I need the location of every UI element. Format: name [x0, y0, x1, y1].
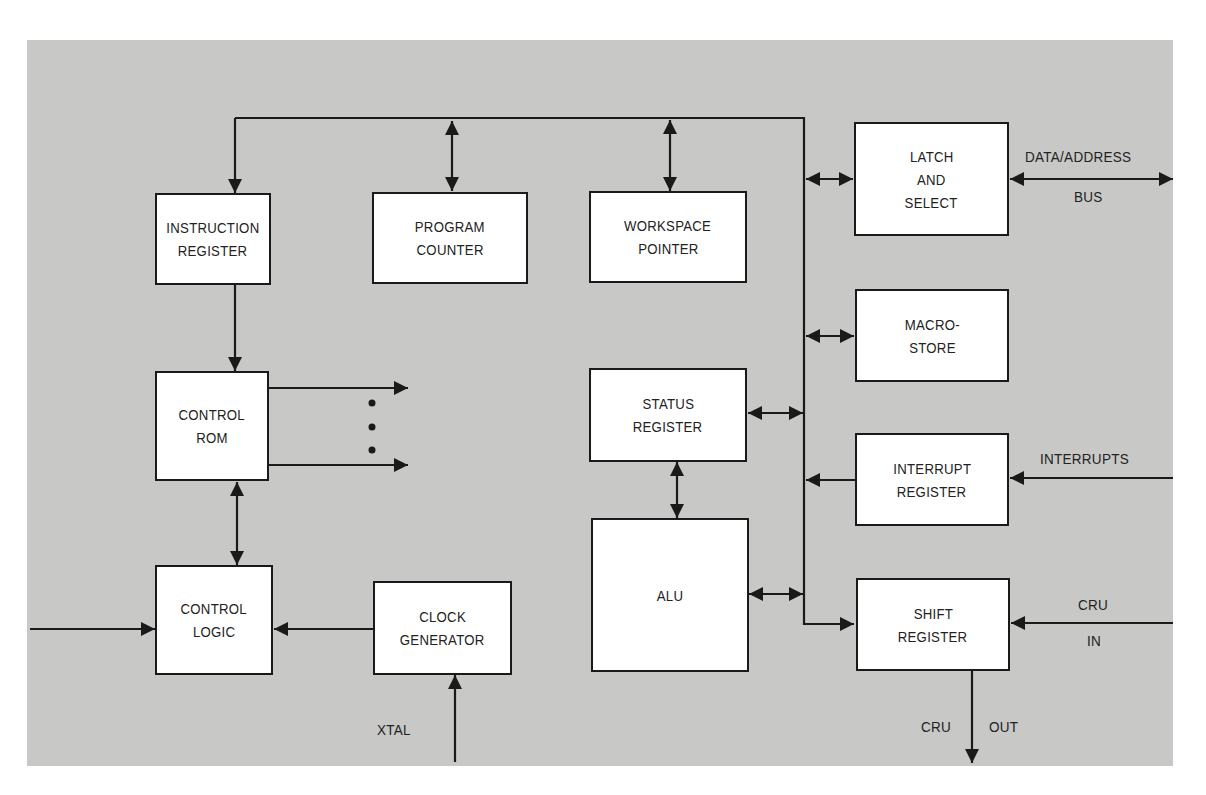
block-label: CONTROL — [181, 597, 247, 620]
block-label: GENERATOR — [400, 628, 485, 651]
block-label: ALU — [657, 584, 683, 607]
program-counter-block: PROGRAM COUNTER — [372, 192, 528, 284]
bus-label: BUS — [1074, 188, 1103, 205]
control-rom-block: CONTROL ROM — [155, 371, 269, 481]
interrupts-label: INTERRUPTS — [1040, 450, 1129, 467]
ellipsis-dots — [369, 400, 376, 454]
block-label: STORE — [909, 336, 956, 359]
clock-generator-block: CLOCK GENERATOR — [373, 581, 512, 675]
block-label: REGISTER — [178, 239, 248, 262]
block-label: COUNTER — [416, 238, 483, 261]
block-label: REGISTER — [898, 625, 968, 648]
block-label: REGISTER — [633, 415, 703, 438]
status-register-block: STATUS REGISTER — [589, 368, 747, 462]
macro-store-block: MACRO- STORE — [855, 289, 1009, 382]
block-label: STATUS — [642, 392, 694, 415]
block-label: REGISTER — [897, 480, 967, 503]
cru-in-label-top: CRU — [1078, 596, 1108, 613]
xtal-label: XTAL — [377, 721, 411, 738]
block-label: LATCH — [910, 145, 954, 168]
cru-in-label-bottom: IN — [1087, 632, 1101, 649]
block-label: AND — [917, 168, 946, 191]
interrupt-register-block: INTERRUPT REGISTER — [855, 433, 1009, 526]
block-label: SHIFT — [913, 602, 952, 625]
data-address-label: DATA/ADDRESS — [1025, 148, 1131, 165]
cru-out-label-right: OUT — [989, 718, 1018, 735]
block-label: CONTROL — [179, 403, 245, 426]
block-label: POINTER — [638, 237, 699, 260]
block-label: MACRO- — [904, 313, 959, 336]
control-logic-block: CONTROL LOGIC — [155, 565, 273, 675]
block-label: CLOCK — [419, 605, 466, 628]
block-label: LOGIC — [193, 620, 235, 643]
workspace-pointer-block: WORKSPACE POINTER — [589, 191, 747, 283]
block-label: INSTRUCTION — [166, 216, 259, 239]
latch-and-select-block: LATCH AND SELECT — [854, 122, 1009, 236]
block-label: INTERRUPT — [893, 457, 971, 480]
block-label: WORKSPACE — [624, 214, 711, 237]
shift-register-block: SHIFT REGISTER — [856, 578, 1010, 671]
cru-out-label-left: CRU — [921, 718, 951, 735]
block-label: SELECT — [905, 191, 958, 214]
internal-bus-top — [235, 118, 854, 624]
alu-block: ALU — [591, 518, 749, 672]
block-label: PROGRAM — [415, 215, 485, 238]
block-label: ROM — [196, 426, 228, 449]
instruction-register-block: INSTRUCTION REGISTER — [155, 193, 271, 285]
